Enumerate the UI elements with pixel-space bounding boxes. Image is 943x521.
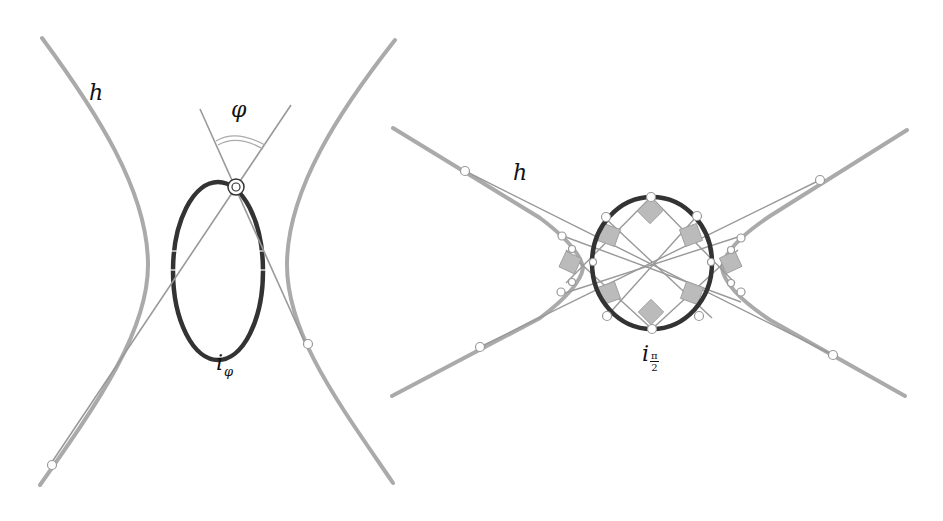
fraction-numerator: π <box>650 350 659 362</box>
angle-arc-inner <box>218 140 263 149</box>
ellipse-label-base: i <box>216 350 223 375</box>
ellipse-label-subscript: φ <box>224 364 233 379</box>
right-hyperbola-branch-left <box>392 128 583 396</box>
ellipse-label-fraction: π2 <box>650 350 659 373</box>
right-curve-label-h: h <box>513 160 527 185</box>
left-ellipse-label: iφ <box>216 350 233 379</box>
left-hyperbola-branch-right <box>287 40 395 483</box>
left-curve-label-h: h <box>89 80 103 105</box>
tangent-line-2 <box>50 105 291 465</box>
right-ellipse-label: iπ2 <box>642 341 659 373</box>
left-hyperbola-branch-left <box>40 38 148 485</box>
fraction-denominator: 2 <box>650 362 659 373</box>
touch-point-inner <box>232 183 240 191</box>
tangent-point-right <box>304 340 313 349</box>
tangent-point-left <box>48 461 57 470</box>
left-panel <box>40 38 395 485</box>
ellipse-i-phi <box>173 182 263 360</box>
figure-canvas <box>0 0 943 521</box>
right-hyperbola-branch-right <box>722 130 907 396</box>
angle-label-phi: φ <box>231 97 246 122</box>
ellipse-label-base: i <box>642 341 649 366</box>
